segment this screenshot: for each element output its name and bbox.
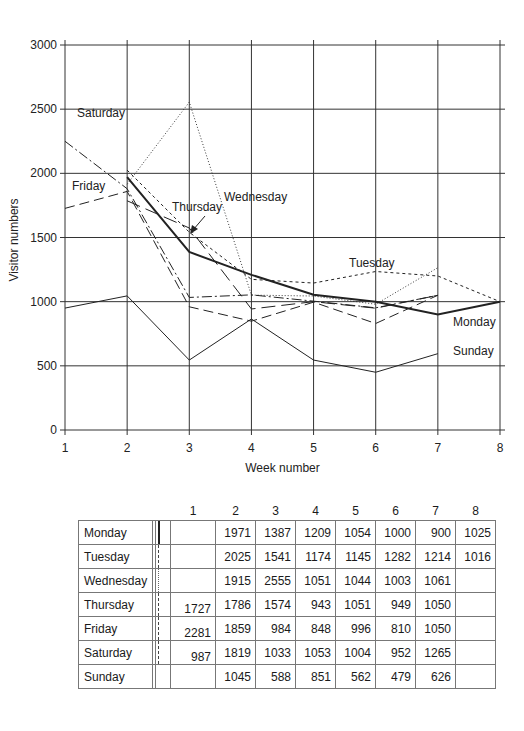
table-cell: 1004: [336, 641, 376, 665]
line-style-swatch: [156, 521, 171, 545]
table-cell: 1214: [416, 545, 456, 569]
y-tick-label: 1000: [30, 295, 57, 309]
table-cell: 984: [256, 617, 296, 641]
row-label: Wednesday: [79, 569, 153, 593]
column-header: 8: [458, 504, 494, 518]
x-tick-label: 2: [124, 441, 131, 455]
table-cell: 479: [376, 665, 416, 689]
column-header: 3: [258, 504, 294, 518]
series-label-friday: Friday: [72, 179, 105, 193]
table-cell: [171, 665, 216, 689]
table-cell: 2025: [216, 545, 256, 569]
swatch-line-icon: [158, 593, 159, 616]
row-label: Sunday: [79, 665, 153, 689]
table-cell: 851: [296, 665, 336, 689]
table-cell: 1051: [336, 593, 376, 617]
table-cell: 1061: [416, 569, 456, 593]
table-cell: 1044: [336, 569, 376, 593]
swatch-line-icon: [158, 617, 159, 640]
x-tick-label: 6: [372, 441, 379, 455]
y-tick-label: 500: [37, 359, 57, 373]
table-cell: 1265: [416, 641, 456, 665]
y-tick-label: 3000: [30, 38, 57, 52]
series-label-wednesday: Wednesday: [224, 190, 287, 204]
table-cell: 1003: [376, 569, 416, 593]
line-style-swatch: [156, 617, 171, 641]
table-cell: 588: [256, 665, 296, 689]
table-cell: 949: [376, 593, 416, 617]
y-tick-label: 2500: [30, 102, 57, 116]
table-row: Sunday1045588851562479626: [79, 665, 496, 689]
series-label-monday: Monday: [453, 315, 496, 329]
series-label-sunday: Sunday: [453, 344, 494, 358]
row-label: Thursday: [79, 593, 153, 617]
y-tick-label: 0: [50, 423, 57, 437]
swatch-line-icon: [158, 545, 159, 568]
table-cell: 1859: [216, 617, 256, 641]
table-cell: 626: [416, 665, 456, 689]
table-cell: 810: [376, 617, 416, 641]
table-cell: 2281: [171, 617, 216, 641]
table-cell: 1786: [216, 593, 256, 617]
table-row: Thursday17271786157494310519491050: [79, 593, 496, 617]
line-style-swatch: [156, 665, 171, 689]
table-cell: 900: [416, 521, 456, 545]
row-label: Tuesday: [79, 545, 153, 569]
table-cell: 1045: [216, 665, 256, 689]
table-cell: 1000: [376, 521, 416, 545]
table-cell: 848: [296, 617, 336, 641]
table-cell: 1033: [256, 641, 296, 665]
table-cell: 1051: [296, 569, 336, 593]
data-table: Monday197113871209105410009001025Tuesday…: [78, 520, 496, 689]
x-tick-label: 8: [497, 441, 504, 455]
x-tick-label: 4: [248, 441, 255, 455]
table-cell: 1050: [416, 593, 456, 617]
series-label-tuesday: Tuesday: [349, 256, 395, 270]
arrow-head-icon: [190, 225, 198, 234]
column-header: 5: [338, 504, 374, 518]
table-cell: 952: [376, 641, 416, 665]
table-cell: 1971: [216, 521, 256, 545]
swatch-line-icon: [158, 641, 159, 664]
column-header: 4: [298, 504, 334, 518]
table-cell: 1574: [256, 593, 296, 617]
x-tick-label: 1: [62, 441, 69, 455]
table-cell: 1050: [416, 617, 456, 641]
table-cell: [456, 593, 496, 617]
table-cell: 1053: [296, 641, 336, 665]
table-cell: 996: [336, 617, 376, 641]
table-cell: 1025: [456, 521, 496, 545]
row-label: Monday: [79, 521, 153, 545]
table-cell: 1915: [216, 569, 256, 593]
table-cell: 1016: [456, 545, 496, 569]
table-cell: [456, 569, 496, 593]
table-cell: 1145: [336, 545, 376, 569]
table-cell: [456, 641, 496, 665]
line-style-swatch: [156, 593, 171, 617]
y-tick-label: 2000: [30, 166, 57, 180]
table-cell: 1054: [336, 521, 376, 545]
table-cell: [171, 569, 216, 593]
table-cell: 987: [171, 641, 216, 665]
line-style-swatch: [156, 545, 171, 569]
table-cell: 1727: [171, 593, 216, 617]
table-row: Monday197113871209105410009001025: [79, 521, 496, 545]
line-style-swatch: [156, 569, 171, 593]
table-cell: 2555: [256, 569, 296, 593]
row-label: Friday: [79, 617, 153, 641]
line-style-swatch: [156, 641, 171, 665]
table-cell: 1174: [296, 545, 336, 569]
swatch-line-icon: [158, 569, 159, 592]
x-tick-label: 3: [186, 441, 193, 455]
table-row: Friday228118599848489968101050: [79, 617, 496, 641]
table-cell: [171, 545, 216, 569]
x-tick-label: 7: [435, 441, 442, 455]
table-cell: 1387: [256, 521, 296, 545]
series-label-saturday: Saturday: [77, 106, 125, 120]
y-tick-label: 1500: [30, 231, 57, 245]
column-header: 7: [418, 504, 454, 518]
column-header: 2: [218, 504, 254, 518]
series-label-thursday: Thursday: [172, 200, 222, 214]
table-cell: 943: [296, 593, 336, 617]
table-cell: [171, 521, 216, 545]
